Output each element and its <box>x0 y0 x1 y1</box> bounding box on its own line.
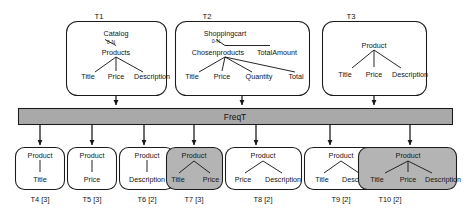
t2-leaf-4-label: Total <box>288 72 304 81</box>
output-tree-t5[interactable]: Product Price T5 [3] <box>68 148 117 205</box>
t8-leaf-2-label: Description <box>265 175 301 184</box>
t2-mid-label: Chosenproducts <box>192 48 245 57</box>
output-tree-t7-label: T7 [3] <box>185 195 204 204</box>
t1-mid-label: Products <box>102 48 131 57</box>
t8-leaf-1-label: Price <box>235 175 251 184</box>
t3-leaf-2-label: Price <box>366 70 382 79</box>
output-tree-t7[interactable]: Product Title Price T7 [3] <box>167 148 223 205</box>
output-tree-t8[interactable]: Product Price Description T8 [2] <box>226 148 302 205</box>
t1-leaf-2-label: Price <box>108 72 124 81</box>
output-tree-t4-label: T4 [3] <box>31 195 50 204</box>
output-tree-t4[interactable]: Product Title T4 [3] <box>16 148 65 205</box>
t1-cardinality-label: 0-N <box>107 39 116 45</box>
diagram-canvas: T1 Catalog 0-N Products Title Price Desc… <box>0 0 470 212</box>
t3-leaf-1-label: Title <box>338 70 351 79</box>
t4-root-label: Product <box>28 151 53 160</box>
output-tree-t10[interactable]: Product Title Price Description T10 [2] <box>359 148 461 205</box>
input-tree-t3-label: T3 <box>347 12 356 21</box>
t10-leaf-2-label: Price <box>400 175 416 184</box>
freqt-bar-label: FreqT <box>224 112 246 122</box>
t5-leaf-1-label: Price <box>84 175 100 184</box>
output-tree-t6-label: T6 [2] <box>138 195 157 204</box>
t2-cardinality-label: 0-N <box>212 38 221 44</box>
t1-leaf-3-label: Description <box>134 72 170 81</box>
t3-leaf-3-label: Description <box>392 70 428 79</box>
t9-root-label: Product <box>329 151 354 160</box>
output-tree-t8-label: T8 [2] <box>254 195 273 204</box>
input-tree-t1[interactable]: T1 Catalog 0-N Products Title Price Desc… <box>67 12 170 96</box>
freqt-diagram: T1 Catalog 0-N Products Title Price Desc… <box>0 0 470 212</box>
input-tree-t3[interactable]: T3 Product Title Price Description <box>323 12 428 96</box>
t7-leaf-1-label: Title <box>171 175 184 184</box>
t6-leaf-1-label: Description <box>129 175 165 184</box>
t10-leaf-3-label: Description <box>425 175 461 184</box>
t2-root-label: Shoppingcart <box>204 29 246 38</box>
t10-leaf-1-label: Title <box>370 175 383 184</box>
t3-root-label: Product <box>362 41 387 50</box>
t8-root-label: Product <box>251 151 276 160</box>
output-tree-t10-label: T10 [2] <box>378 195 401 204</box>
t1-root-label: Catalog <box>104 29 129 38</box>
t2-leaf-3-label: Quantity <box>246 72 273 81</box>
output-tree-t5-label: T5 [3] <box>83 195 102 204</box>
t2-mid2-label: TotalAmount <box>257 48 297 57</box>
t6-root-label: Product <box>135 151 160 160</box>
input-tree-t1-label: T1 <box>95 12 104 21</box>
t5-root-label: Product <box>80 151 105 160</box>
t1-leaf-1-label: Title <box>81 72 94 81</box>
input-tree-t2-label: T2 <box>203 12 212 21</box>
t4-leaf-1-label: Title <box>33 175 46 184</box>
output-tree-t9-label: T9 [2] <box>332 195 351 204</box>
input-tree-t3-box[interactable] <box>323 22 427 96</box>
input-tree-t2[interactable]: T2 Shoppingcart 0-N Chosenproducts Total… <box>176 12 310 96</box>
t2-leaf-2-label: Price <box>214 72 230 81</box>
freqt-process-bar[interactable]: FreqT <box>19 109 453 125</box>
t2-leaf-1-label: Title <box>185 72 198 81</box>
t7-root-label: Product <box>182 151 207 160</box>
t7-leaf-2-label: Price <box>203 175 219 184</box>
t10-root-label: Product <box>396 151 421 160</box>
t9-leaf-1-label: Title <box>315 175 328 184</box>
